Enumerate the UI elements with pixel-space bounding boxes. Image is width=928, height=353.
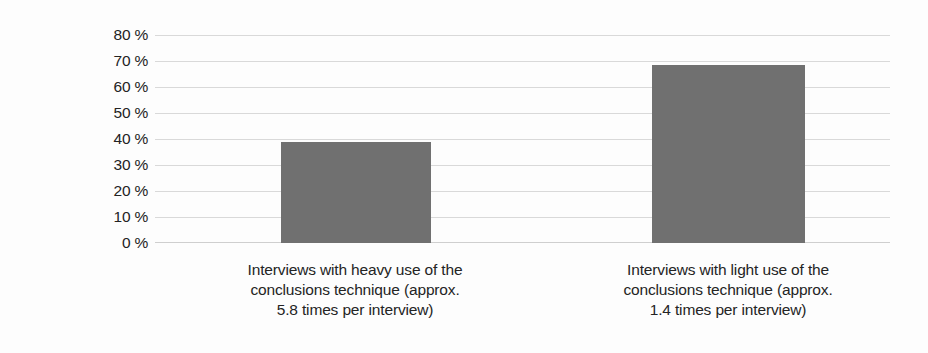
y-axis-tick-labels: 80 % 70 % 60 % 50 % 40 % 30 % 20 % 10 % … [88,35,148,243]
plot-area [155,35,890,243]
bar-light-use[interactable] [652,65,805,243]
y-axis-title: Interviews leading to a sale (%) [14,0,76,62]
category-label-heavy-use-line-2: conclusions technique (approx. [205,280,505,300]
y-tick-70: 70 % [88,52,148,70]
bar-chart-figure: Interviews leading to a sale (%) 80 % 70… [0,0,928,353]
y-tick-50: 50 % [88,104,148,122]
y-tick-60: 60 % [88,78,148,96]
bar-heavy-use[interactable] [281,142,431,243]
y-tick-10: 10 % [88,208,148,226]
gridline-70 [155,61,890,62]
category-label-light-use: Interviews with light use of the conclus… [578,260,878,320]
y-tick-80: 80 % [88,26,148,44]
category-label-heavy-use-line-1: Interviews with heavy use of the [205,260,505,280]
gridline-80 [155,35,890,36]
y-tick-20: 20 % [88,182,148,200]
category-label-light-use-line-3: 1.4 times per interview) [578,300,878,320]
category-label-light-use-line-2: conclusions technique (approx. [578,280,878,300]
category-label-heavy-use-line-3: 5.8 times per interview) [205,300,505,320]
category-label-heavy-use: Interviews with heavy use of the conclus… [205,260,505,320]
y-tick-30: 30 % [88,156,148,174]
category-label-light-use-line-1: Interviews with light use of the [578,260,878,280]
y-tick-40: 40 % [88,130,148,148]
y-tick-0: 0 % [88,234,148,252]
